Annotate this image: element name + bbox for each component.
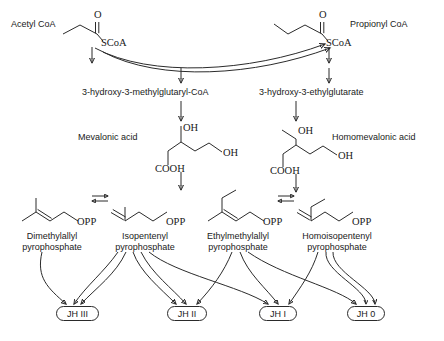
arrows-to-jh-0 — [248, 252, 375, 304]
equilibrium-emapp-hipp — [278, 196, 294, 201]
dmapp-name-line2: pyrophosphate — [2, 242, 102, 253]
ipp-name: Isopentenyl pyrophosphate — [95, 231, 195, 253]
propionyl-coa-label: Propionyl CoA — [350, 19, 408, 29]
ipp-name-line2: pyrophosphate — [95, 242, 195, 253]
homomevalonic-acid-oh-right-label: OH — [338, 150, 353, 162]
heg-label: 3-hydroxy-3-ethylglutarate — [259, 87, 364, 97]
mevalonic-acid-oh-right-label: OH — [223, 147, 238, 159]
jh-ii-label: JH II — [178, 309, 197, 319]
emapp-name-line1: Ethylmethylallyl — [186, 231, 290, 242]
jh-0-label: JH 0 — [357, 309, 376, 319]
emapp-structure — [208, 190, 264, 221]
emapp-name: Ethylmethylallyl pyrophosphate — [186, 231, 290, 253]
mevalonic-acid-label: Mevalonic acid — [78, 132, 138, 142]
ipp-structure — [111, 207, 167, 221]
mevalonic-acid-cooh-label: COOH — [155, 163, 185, 175]
dmapp-name-line1: Dimethylallyl — [2, 231, 102, 242]
ipp-opp-label: OPP — [166, 216, 185, 228]
hipp-opp-label: OPP — [352, 216, 371, 228]
diagram-linework — [0, 0, 444, 341]
hipp-structure — [297, 199, 353, 221]
acetyl-coa-label: Acetyl CoA — [11, 19, 56, 29]
condensation-curves — [95, 44, 330, 72]
hipp-name-line2: pyrophosphate — [285, 242, 389, 253]
dmapp-name: Dimethylallyl pyrophosphate — [2, 231, 102, 253]
dmapp-structure — [22, 198, 78, 221]
homomevalonic-acid-cooh-label: COOH — [270, 165, 300, 177]
jh-iii-box[interactable]: JH III — [56, 306, 99, 321]
homomevalonic-acid-oh-top-label: OH — [298, 125, 313, 137]
propionyl-coa-structure — [274, 22, 328, 41]
jh-i-label: JH I — [270, 309, 286, 319]
pathway-diagram: Acetyl CoA O SCoA Propionyl CoA O SCoA 3… — [0, 0, 444, 341]
hipp-name-line1: Homoisopentenyl — [285, 231, 389, 242]
jh-ii-box[interactable]: JH II — [167, 306, 207, 321]
acetyl-coa-scoa-label: SCoA — [101, 37, 127, 49]
emapp-name-line2: pyrophosphate — [186, 242, 290, 253]
equilibrium-dmapp-ipp — [92, 196, 108, 201]
hipp-name: Homoisopentenyl pyrophosphate — [285, 231, 389, 253]
propionyl-coa-oxygen-label: O — [319, 9, 327, 21]
jh-0-box[interactable]: JH 0 — [347, 306, 385, 321]
arrows-to-jh-iii — [40, 252, 126, 304]
acetyl-coa-oxygen-label: O — [94, 9, 102, 21]
hmg-coa-label: 3-hydroxy-3-methylglutaryl-CoA — [82, 87, 209, 97]
arrows-to-jh-i — [149, 252, 318, 304]
jh-i-box[interactable]: JH I — [259, 306, 297, 321]
dmapp-opp-label: OPP — [77, 216, 96, 228]
homomevalonic-acid-label: Homomevalonic acid — [332, 132, 416, 142]
propionyl-coa-scoa-label: SCoA — [326, 37, 352, 49]
ipp-name-line1: Isopentenyl — [95, 231, 195, 242]
jh-iii-label: JH III — [67, 309, 88, 319]
mevalonic-acid-oh-top-label: OH — [183, 122, 198, 134]
arrows-to-jh-ii — [133, 252, 232, 304]
emapp-opp-label: OPP — [263, 216, 282, 228]
acetyl-coa-structure — [63, 22, 103, 41]
